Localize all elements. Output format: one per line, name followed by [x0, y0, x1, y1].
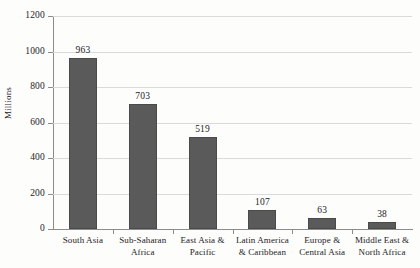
bar-value-label: 63	[317, 205, 327, 215]
bar-group: 703	[113, 16, 173, 229]
x-axis-category-label-line: Middle East &	[345, 235, 419, 247]
y-axis-tick-label: 0	[40, 223, 45, 233]
y-axis-tick-label: 200	[30, 188, 45, 198]
bar-value-label: 38	[377, 209, 387, 219]
bar-chart-figure: Millions 020040060080010001200 963703519…	[0, 0, 420, 268]
y-axis-tick-label: 600	[30, 117, 45, 127]
bar-value-label: 107	[255, 197, 270, 207]
bar	[308, 218, 336, 229]
x-axis-category-label: Middle East &North Africa	[345, 235, 419, 258]
bar-value-label: 519	[195, 124, 210, 134]
y-axis-tick-label: 1000	[25, 46, 45, 56]
x-axis-tick-mark	[292, 230, 293, 234]
y-axis-tick-label: 800	[30, 81, 45, 91]
bar-group: 963	[53, 16, 113, 229]
y-axis-tick-label: 400	[30, 152, 45, 162]
bar	[189, 137, 217, 229]
bar	[129, 104, 157, 229]
x-axis-tick-mark	[113, 230, 114, 234]
x-axis-tick-mark	[173, 230, 174, 234]
x-axis-tick-mark	[233, 230, 234, 234]
y-axis-tick-label: 1200	[25, 10, 45, 20]
bar-group: 107	[232, 16, 292, 229]
bar-value-label: 703	[135, 91, 150, 101]
y-axis-tick-labels: 020040060080010001200	[0, 0, 45, 268]
bar	[368, 222, 396, 229]
bar	[248, 210, 276, 229]
plot-area: 9637035191076338	[53, 16, 412, 229]
bar-group: 38	[352, 16, 412, 229]
bar-group: 519	[173, 16, 233, 229]
bar-group: 63	[292, 16, 352, 229]
x-axis-category-label-line: North Africa	[345, 247, 419, 259]
bar	[69, 58, 97, 229]
x-axis-tick-mark	[352, 230, 353, 234]
bar-value-label: 963	[75, 45, 90, 55]
